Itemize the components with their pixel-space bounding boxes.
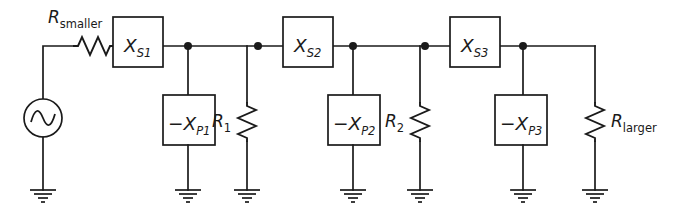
- ground-icon: [340, 190, 366, 202]
- label-rlarger: Rlarger: [611, 111, 657, 135]
- schematic-canvas: Rsmaller XS1 XS2 XS3 −XP1: [0, 0, 682, 216]
- ground-icon: [30, 190, 56, 202]
- resistor-zigzag-icon: [238, 102, 256, 142]
- ground-icon: [234, 190, 260, 202]
- node-dot-3: [349, 42, 357, 50]
- ground-icon: [175, 190, 201, 202]
- label-rsmaller: Rsmaller: [48, 7, 103, 31]
- node-dot-1: [184, 42, 192, 50]
- ground-icon: [407, 190, 433, 202]
- series-box-xs3: XS3: [450, 17, 500, 67]
- shunt-branch-r2: R2: [385, 46, 433, 202]
- resistor-zigzag-icon: [586, 102, 604, 142]
- node-dot-2: [254, 42, 262, 50]
- ground-icon: [510, 190, 536, 202]
- shunt-branch-r1: R1: [212, 46, 260, 202]
- circuit-diagram: Rsmaller XS1 XS2 XS3 −XP1: [0, 0, 682, 216]
- series-box-xs1: XS1: [113, 17, 163, 67]
- shunt-branch-xp2: −XP2: [328, 46, 380, 202]
- node-dot-4: [421, 42, 429, 50]
- shunt-branch-xp1: −XP1: [163, 46, 215, 202]
- shunt-branch-rlarger: Rlarger: [582, 46, 657, 202]
- series-resistor-rsmaller: [73, 37, 113, 55]
- label-r2: R2: [385, 111, 404, 135]
- ac-source-branch: [24, 46, 73, 202]
- shunt-branch-xp3: −XP3: [495, 46, 547, 202]
- resistor-zigzag-icon: [411, 102, 429, 142]
- node-dot-5: [519, 42, 527, 50]
- wire-source-to-rail: [43, 46, 73, 99]
- resistor-zigzag-icon: [73, 37, 113, 55]
- series-box-xs2: XS2: [283, 17, 333, 67]
- ground-icon: [582, 190, 608, 202]
